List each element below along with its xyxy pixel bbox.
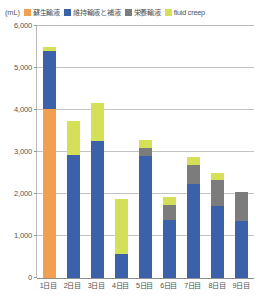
bar-segment-fluid-creep [211, 173, 224, 180]
plot-area [36, 25, 254, 278]
y-tick-label: 4,000 [14, 105, 32, 114]
bar-segment-fluid-creep [67, 121, 80, 155]
bar-segment-maintenance [115, 254, 128, 278]
x-tick-label: 7日目 [181, 280, 205, 302]
stacked-bar[interactable] [43, 47, 56, 278]
x-tick-label: 6日目 [157, 280, 181, 302]
x-tick-label: 1日目 [36, 280, 60, 302]
bar-slot [230, 26, 254, 278]
stacked-bar[interactable] [115, 199, 128, 278]
x-tick-label: 3日目 [84, 280, 108, 302]
bar-segment-maintenance [91, 141, 104, 278]
bar-segment-fluid-creep [187, 157, 200, 165]
stacked-bar[interactable] [163, 197, 176, 278]
bar-segment-nutrition [235, 192, 248, 221]
stacked-bar[interactable] [139, 140, 152, 278]
bar-slot [109, 26, 133, 278]
y-tick-label: 5,000 [14, 63, 32, 72]
x-tick-label: 4日目 [108, 280, 132, 302]
bar-slot [85, 26, 109, 278]
bar-segment-maintenance [235, 221, 248, 278]
x-tick-label: 8日目 [205, 280, 229, 302]
stacked-bar[interactable] [67, 121, 80, 278]
bar-segment-nutrition [211, 180, 224, 206]
bar-segment-fluid-creep [91, 103, 104, 141]
y-tick-label: 1,000 [14, 231, 32, 240]
y-tick-label: 3,000 [14, 147, 32, 156]
bar-segment-maintenance [139, 156, 152, 278]
bar-segment-maintenance [211, 206, 224, 278]
plot-wrapper: 6,000 5,000 4,000 3,000 2,000 1,000 0 [0, 0, 257, 307]
bar-segment-nutrition [163, 205, 176, 221]
bar-segment-maintenance [163, 220, 176, 278]
bar-slot [61, 26, 85, 278]
stacked-bar[interactable] [211, 173, 224, 278]
stacked-bar[interactable] [187, 157, 200, 278]
x-axis: 1日目 2日目 3日目 4日目 5日目 6日目 7日目 8日目 9日目 [36, 280, 253, 302]
bar-slot [133, 26, 157, 278]
y-tick-label: 0 [28, 273, 32, 282]
x-tick-label: 2日目 [60, 280, 84, 302]
bar-segment-fluid-creep [115, 199, 128, 255]
bar-segment-nutrition [139, 148, 152, 156]
bar-slot [37, 26, 61, 278]
bar-segment-maintenance [187, 184, 200, 279]
axis-baseline [37, 278, 254, 279]
bar-slot [206, 26, 230, 278]
y-axis: 6,000 5,000 4,000 3,000 2,000 1,000 0 [0, 0, 36, 307]
bar-segment-fluid-creep [139, 140, 152, 148]
bar-segment-maintenance [43, 51, 56, 109]
stacked-bar[interactable] [235, 192, 248, 278]
x-tick-label: 5日目 [132, 280, 156, 302]
bar-slot [182, 26, 206, 278]
x-tick-label: 9日目 [229, 280, 253, 302]
bar-segment-resuscitation [43, 109, 56, 278]
bar-segment-fluid-creep [163, 197, 176, 205]
bar-chart: (mL) 蘇生輸液 維持輸液と補液 栄養輸液 fluid creep 6,000… [0, 0, 257, 307]
y-tick-label: 2,000 [14, 189, 32, 198]
bar-segment-maintenance [67, 155, 80, 278]
stacked-bar[interactable] [91, 103, 104, 278]
bar-group-container [37, 26, 254, 278]
bar-segment-nutrition [187, 165, 200, 183]
bar-slot [158, 26, 182, 278]
y-tick-label: 6,000 [14, 21, 32, 30]
